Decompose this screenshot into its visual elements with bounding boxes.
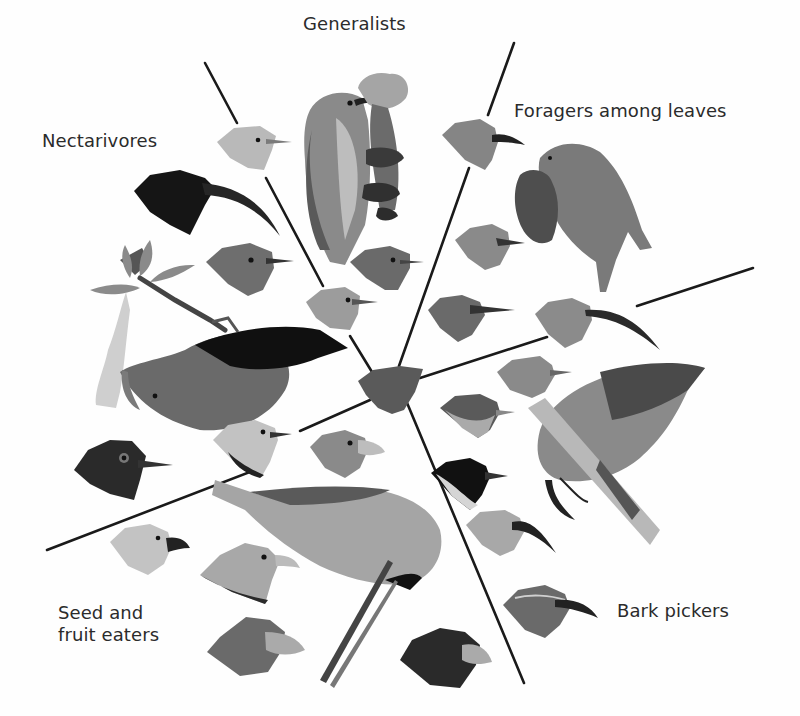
divider-nectar-generalists <box>350 336 372 372</box>
honeycreeper-radiation-figure: Generalists Foragers among leaves Bark p… <box>0 0 800 716</box>
divider-seed-nectar <box>300 400 370 431</box>
bird-head-icon <box>74 440 173 500</box>
bird-head-icon <box>440 394 515 438</box>
divider-generalists-foragers <box>488 43 514 115</box>
bird-head-icon <box>306 287 378 330</box>
bird-head-icon <box>207 617 305 676</box>
bird-head-icon <box>400 628 492 688</box>
bird-head-icon <box>466 510 556 556</box>
ancestor-head-icon <box>358 366 423 414</box>
label-bark-pickers: Bark pickers <box>617 600 729 622</box>
koa-flower-icon <box>515 170 558 243</box>
bird-head-icon <box>217 126 292 170</box>
bird-head-icon <box>310 430 385 478</box>
bird-head-icon <box>206 243 294 296</box>
divider-foragers-bark <box>637 268 753 306</box>
bird-head-icon <box>431 458 508 510</box>
bird-body-icon <box>120 318 348 430</box>
sector-seed-eaters-birds <box>110 420 492 688</box>
label-nectarivores: Nectarivores <box>42 130 157 152</box>
sector-foragers-birds <box>428 119 660 350</box>
bird-head-icon <box>497 356 572 398</box>
label-seed-and-fruit-eaters: Seed and fruit eaters <box>58 602 159 646</box>
bird-head-icon <box>503 585 598 638</box>
bird-head-icon <box>442 119 525 170</box>
bird-head-icon <box>213 420 292 478</box>
bird-head-icon <box>350 246 424 290</box>
bird-head-icon <box>455 224 525 270</box>
label-foragers-among-leaves: Foragers among leaves <box>514 100 727 122</box>
bird-body-icon <box>304 93 378 265</box>
bird-head-icon <box>110 524 190 575</box>
sector-generalists-birds <box>304 73 424 330</box>
label-generalists: Generalists <box>303 13 406 35</box>
bird-head-icon <box>428 295 515 342</box>
bird-head-icon <box>134 170 280 236</box>
bird-head-icon <box>200 543 300 604</box>
divider-nectar-generalists <box>205 63 237 123</box>
sector-bark-pickers-birds <box>431 356 705 638</box>
